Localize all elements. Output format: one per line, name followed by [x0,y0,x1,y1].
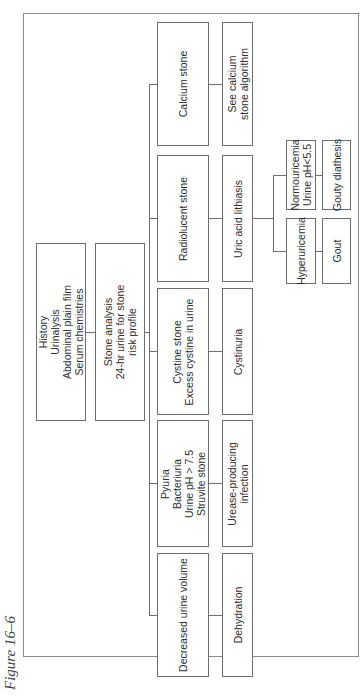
connector-hyper-gout [315,251,322,252]
node-initial-evaluation: History Urinalysis Abdominal plain film … [36,243,86,421]
connector-trunk-cystine [149,351,157,352]
node-label: Dehydration [232,587,244,644]
node-see-calcium-algorithm: See calcium stone algorithm [222,22,253,146]
connector-trunk-decreased [149,615,157,616]
node-dehydration: Dehydration [222,553,253,677]
node-hyperuricemia: Hyperuricemia [286,218,316,284]
node-stone-analysis: Stone analysis 24-hr urine for stone ris… [95,243,145,421]
node-label: Gout [331,240,343,263]
node-gouty-diathesis: Gouty diathesis [322,140,351,210]
node-cystine-stone: Cystine stone Excess cystine in urine [157,288,209,415]
connector-struvite-urease [208,483,222,484]
connector-uric-split [273,175,274,251]
connector-uric-branch [252,218,273,219]
node-calcium-stone: Calcium stone [157,22,209,146]
connector-normo-gouty [315,175,322,176]
node-label: Urease-producing infection [226,442,250,525]
connector-split-hyper [273,251,286,252]
connector-split-normo [273,175,286,176]
connector-trunk-calcium [149,84,157,85]
node-label: Gouty diathesis [331,139,343,211]
node-gout: Gout [322,218,351,284]
node-label: Stone analysis 24-hr urine for stone ris… [102,285,138,380]
connector-radiolucent-uric [208,218,222,219]
node-label: Radiolucent stone [177,176,189,260]
connector-decreased-dehydration [208,615,222,616]
node-label: Hyperuricemia [295,217,307,285]
node-cystinuria: Cystinuria [222,288,253,415]
figure-caption: Figure 16–6 [2,616,19,690]
node-label: Uric acid lithiasis [232,179,244,257]
node-radiolucent-stone: Radiolucent stone [157,155,209,282]
connector-cystine-cystinuria [208,351,222,352]
connector-trunk-struvite [149,483,157,484]
node-label: Calcium stone [177,51,189,118]
node-label: Cystine stone Excess cystine in urine [171,298,195,405]
node-urease-infection: Urease-producing infection [222,420,253,547]
node-struvite-stone: Pyuria Bacteriuria Urine pH > 7.5 Struvi… [157,420,209,547]
node-label: Pyuria Bacteriuria Urine pH > 7.5 Struvi… [159,450,207,518]
node-label: Normouricemia Urine pH<5.5 [289,139,313,210]
node-decreased-urine-volume: Decreased urine volume [157,553,209,677]
connector-calcium-see [208,84,222,85]
connector-initial-analysis [85,332,95,333]
node-label: Decreased urine volume [177,558,189,672]
node-uric-acid-lithiasis: Uric acid lithiasis [222,155,253,282]
connector-trunk [149,84,150,615]
node-label: History Urinalysis Abdominal plain film … [37,285,85,379]
node-label: See calcium stone algorithm [226,48,250,120]
connector-trunk-radiolucent [149,218,157,219]
node-normouricemia: Normouricemia Urine pH<5.5 [286,140,316,210]
node-label: Cystinuria [232,328,244,375]
